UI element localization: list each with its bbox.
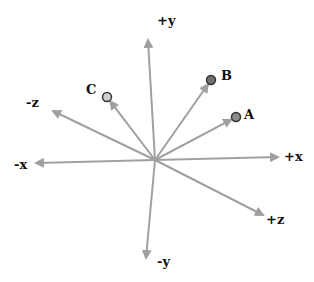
axis-label-pos-x: +x — [284, 150, 303, 163]
axis-neg-x-arrow — [36, 160, 155, 163]
coordinate-diagram: +y -y +x -x +z -z A B C — [0, 0, 314, 282]
point-c-marker — [103, 93, 112, 102]
point-b-marker — [207, 76, 216, 85]
point-a-marker — [232, 113, 241, 122]
vector-b-arrow — [155, 85, 208, 160]
point-label-c: C — [86, 83, 96, 96]
axis-label-neg-x: -x — [14, 158, 27, 171]
axes-group — [36, 40, 278, 258]
vector-c-arrow — [110, 101, 155, 160]
point-label-a: A — [244, 108, 254, 121]
axis-label-neg-z: -z — [26, 96, 39, 109]
vector-a-arrow — [155, 120, 231, 160]
axis-neg-y-arrow — [146, 160, 155, 258]
axis-pos-x-arrow — [155, 157, 278, 160]
points-group — [103, 76, 241, 122]
axes-and-vectors-graphic — [0, 0, 314, 282]
axis-label-pos-y: +y — [157, 14, 175, 27]
point-label-b: B — [221, 69, 232, 82]
axis-pos-y-arrow — [148, 40, 155, 160]
axis-label-pos-z: +z — [266, 213, 284, 226]
axis-neg-z-arrow — [53, 111, 155, 160]
vectors-group — [110, 85, 231, 160]
axis-label-neg-y: -y — [157, 255, 170, 268]
axis-pos-z-arrow — [155, 160, 263, 215]
